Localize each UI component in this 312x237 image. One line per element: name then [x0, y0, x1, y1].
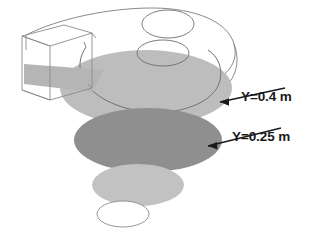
- plane-lower-shaded: [92, 164, 184, 206]
- annotation-y040-label: Y=0.4 m: [241, 89, 292, 104]
- volute-cross-section-diagram: Y=0.4 m Y=0.25 m: [0, 0, 312, 237]
- figure-root: Y=0.4 m Y=0.25 m: [0, 0, 312, 237]
- plane-y025: [74, 108, 222, 172]
- plane-bottom-outline: [97, 201, 149, 227]
- annotation-y025-label: Y=0.25 m: [232, 129, 290, 144]
